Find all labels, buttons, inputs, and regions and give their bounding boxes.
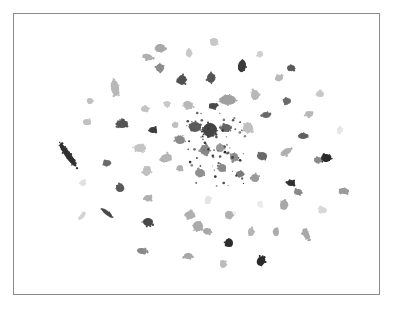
point (243, 153, 244, 154)
point (238, 157, 239, 158)
point (187, 148, 189, 150)
point (244, 135, 246, 137)
cluster (115, 183, 124, 192)
cluster (316, 90, 324, 98)
cluster (102, 159, 111, 166)
cluster (195, 167, 205, 177)
point (196, 157, 198, 159)
point (235, 175, 237, 177)
cluster (141, 52, 155, 63)
point (223, 119, 226, 122)
point (189, 161, 192, 164)
point (220, 125, 222, 127)
cluster (154, 43, 168, 54)
cluster (143, 194, 153, 201)
cluster (250, 89, 260, 101)
point (231, 160, 234, 163)
cluster (224, 238, 233, 247)
point (222, 182, 225, 185)
point (213, 133, 215, 135)
point (218, 162, 220, 164)
cluster (298, 132, 309, 139)
cluster (176, 165, 184, 171)
point (239, 121, 241, 123)
point (204, 141, 207, 144)
cluster (87, 98, 94, 104)
point (232, 119, 235, 122)
cluster (338, 186, 350, 195)
point (214, 175, 217, 178)
point (239, 131, 242, 134)
cluster (304, 111, 314, 118)
cluster (203, 228, 212, 235)
point (226, 144, 228, 146)
cluster (314, 156, 322, 164)
cluster (172, 122, 178, 128)
cluster (257, 152, 267, 161)
cluster (109, 77, 121, 97)
cluster (209, 103, 219, 110)
point (207, 148, 209, 150)
cluster (201, 122, 218, 139)
cluster (316, 205, 328, 216)
cluster (158, 151, 174, 165)
cluster (237, 59, 248, 73)
point (232, 171, 233, 172)
point (219, 155, 222, 158)
cluster (115, 118, 128, 128)
point (234, 128, 236, 130)
cluster (141, 218, 154, 227)
cluster (248, 226, 255, 236)
cluster (283, 97, 291, 105)
cluster (79, 179, 86, 186)
point (186, 120, 189, 123)
cluster (250, 172, 260, 182)
point (212, 165, 213, 166)
point (202, 135, 204, 137)
cluster (286, 179, 296, 186)
cluster (182, 253, 193, 260)
cluster (242, 122, 254, 134)
point (215, 136, 218, 139)
point (224, 146, 226, 148)
cluster (280, 199, 289, 210)
point (207, 128, 209, 130)
point (226, 136, 228, 138)
point (214, 169, 215, 170)
cluster (256, 51, 263, 58)
point (202, 138, 204, 140)
cluster (137, 246, 150, 255)
cluster (132, 143, 146, 153)
cluster (205, 196, 212, 204)
point (198, 150, 200, 152)
cluster (236, 170, 245, 177)
cluster (163, 101, 171, 108)
point (196, 112, 199, 115)
point (212, 156, 214, 158)
cluster (188, 120, 201, 132)
cluster (56, 140, 82, 172)
point (241, 178, 243, 180)
cluster (294, 188, 303, 196)
cluster (220, 260, 227, 268)
point (239, 159, 242, 162)
point (230, 126, 232, 128)
cluster (148, 126, 157, 133)
scatter-plot (0, 0, 393, 309)
cluster (230, 152, 240, 161)
point (200, 136, 201, 137)
point (227, 185, 228, 186)
cluster (219, 123, 232, 132)
point (197, 125, 199, 127)
cluster (299, 227, 312, 243)
cluster (219, 94, 238, 106)
cluster (181, 99, 196, 112)
point (219, 113, 220, 114)
cluster (176, 73, 187, 85)
cluster (77, 210, 88, 221)
point (186, 125, 188, 127)
cluster (321, 153, 333, 162)
point (202, 150, 203, 151)
cluster (257, 201, 263, 209)
cluster (254, 253, 268, 268)
